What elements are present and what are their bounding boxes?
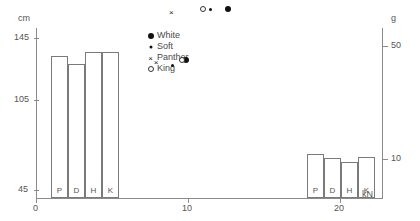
point-soft-1 bbox=[209, 8, 212, 11]
bar-left-h bbox=[85, 52, 102, 198]
y-ticklabel-left-45: 45 bbox=[18, 185, 28, 194]
y-ticklabel-right-10: 10 bbox=[391, 154, 401, 163]
point-king-1 bbox=[200, 6, 206, 12]
filled-circle-large-icon bbox=[146, 30, 155, 41]
y-tick-left-105 bbox=[34, 100, 39, 101]
y-axis-left bbox=[36, 28, 37, 198]
x-axis bbox=[36, 198, 383, 199]
x-ticklabel-20: 20 bbox=[334, 204, 344, 213]
legend: White Soft Panther King bbox=[146, 30, 189, 74]
y-axis-right bbox=[382, 28, 383, 198]
filled-circle-small-icon bbox=[146, 41, 155, 52]
bar-label-left-h: H bbox=[85, 187, 102, 195]
bar-left-d bbox=[68, 64, 85, 198]
x-ticklabel-0: 0 bbox=[33, 204, 38, 213]
bar-label-right-d: D bbox=[324, 187, 341, 195]
point-white-1 bbox=[225, 6, 231, 12]
legend-label-white: White bbox=[157, 30, 180, 40]
bar-left-p bbox=[51, 56, 68, 198]
bar-label-right-k: K bbox=[358, 187, 375, 195]
y-ticklabel-left-145: 145 bbox=[14, 33, 29, 42]
y-tick-left-145 bbox=[34, 38, 39, 39]
y-tick-right-10 bbox=[383, 159, 388, 160]
y-axis-left-unit: cm bbox=[18, 14, 30, 23]
legend-label-soft: Soft bbox=[157, 41, 173, 51]
legend-item-white: White bbox=[146, 30, 189, 41]
point-king-0 bbox=[179, 57, 185, 63]
y-tick-right-50 bbox=[383, 46, 388, 47]
legend-item-soft: Soft bbox=[146, 41, 189, 52]
bar-label-left-p: P bbox=[51, 187, 68, 195]
point-panther-1 bbox=[168, 9, 175, 16]
bar-label-right-p: P bbox=[307, 187, 324, 195]
bar-label-left-d: D bbox=[68, 187, 85, 195]
x-ticklabel-10: 10 bbox=[182, 204, 192, 213]
bar-label-right-h: H bbox=[341, 187, 358, 195]
point-panther-0 bbox=[153, 59, 160, 66]
chart-canvas: 145 105 45 cm 50 10 g 0 10 20 kN White S… bbox=[0, 0, 420, 221]
y-ticklabel-left-105: 105 bbox=[14, 95, 29, 104]
bar-left-k bbox=[102, 52, 119, 198]
y-tick-left-45 bbox=[34, 190, 39, 191]
y-ticklabel-right-50: 50 bbox=[391, 41, 401, 50]
bar-label-left-k: K bbox=[102, 187, 119, 195]
y-axis-right-unit: g bbox=[391, 14, 396, 23]
